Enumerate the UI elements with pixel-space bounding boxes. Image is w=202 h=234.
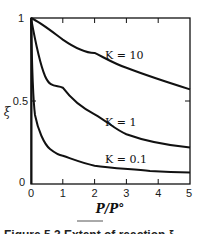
ytick-0-5: 0.5 [13,95,28,107]
label-k1: K = 1 [105,116,136,129]
xtick-0: 0 [28,187,34,199]
xtick-5: 5 [186,187,192,199]
x-axis-title: P/P° [95,202,124,216]
figure-caption: Figure 5.3 Extent of reaction ξ [4,228,174,234]
label-k01: K = 0.1 [105,153,147,166]
x-ticks-top [63,18,158,23]
y-axis-title: ξ [4,105,12,119]
xtick-1: 1 [60,187,66,199]
ytick-0: 0 [19,176,25,188]
xtick-3: 3 [123,187,129,199]
x-ticks-bottom [63,179,158,184]
xtick-2: 2 [92,187,98,199]
label-k10: K = 10 [105,49,143,62]
curve-k01 [31,18,190,172]
ytick-1: 1 [18,12,24,24]
xtick-4: 4 [155,187,161,199]
chart: 1 0.5 0 0 1 2 3 4 5 ξ P/P° K = 10 K = 1 … [0,0,202,234]
